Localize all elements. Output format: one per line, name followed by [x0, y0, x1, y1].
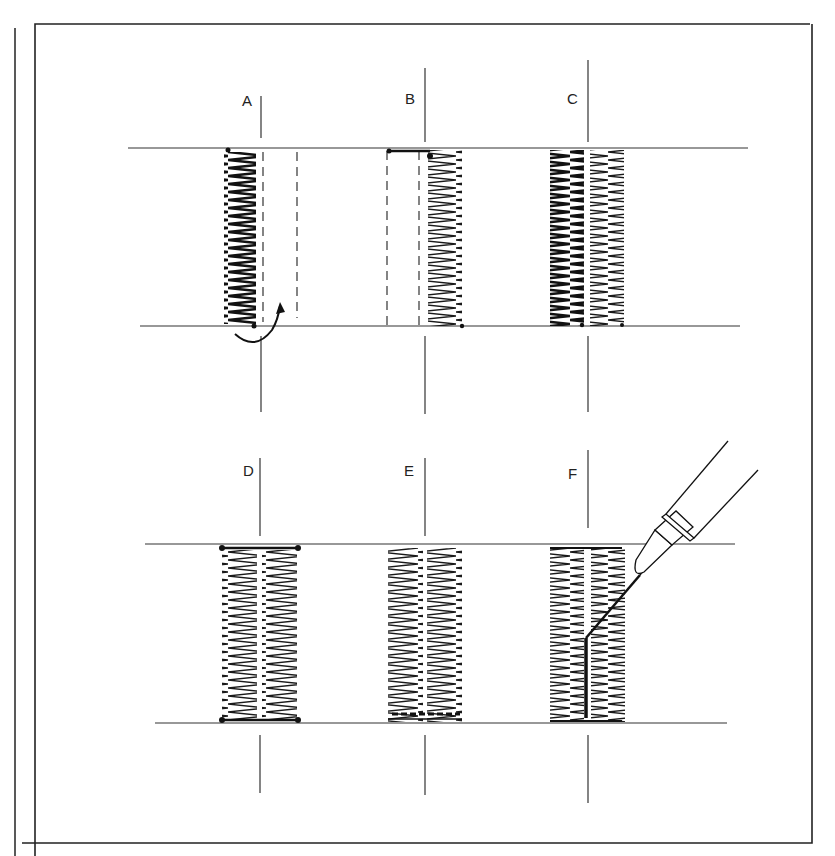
panel-label-d: D — [243, 462, 254, 479]
diagram-canvas — [0, 0, 835, 856]
panel-f — [550, 441, 758, 803]
panel-label-f: F — [568, 465, 577, 482]
panel-a — [224, 96, 297, 412]
panel-e — [388, 458, 462, 795]
panel-label-a: A — [242, 92, 252, 109]
panel-label-c: C — [567, 90, 578, 107]
panel-label-e: E — [404, 462, 414, 479]
panel-b — [387, 68, 465, 414]
diagram-figure: A B C D E F — [0, 0, 835, 856]
panel-d — [219, 458, 301, 793]
panel-c — [550, 60, 624, 412]
panel-label-b: B — [405, 90, 415, 107]
seam-ripper-icon — [635, 441, 758, 575]
